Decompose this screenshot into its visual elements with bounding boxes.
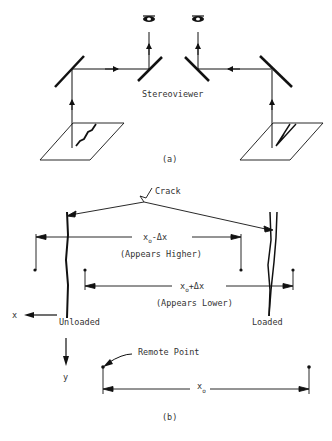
right-eye-icon (192, 16, 204, 22)
caption-a: (a) (162, 154, 177, 164)
upper-dim-suffix: -Δx (152, 232, 167, 242)
left-specimen-unloaded (40, 123, 124, 160)
loaded-crack (268, 212, 277, 316)
panel-b: Crack xo-Δx (Appears Higher) (12, 186, 311, 422)
y-axis-label: y (63, 372, 68, 382)
x-axis-label: x (12, 310, 17, 320)
y-axis-arrow (63, 338, 69, 366)
appears-higher-label: (Appears Higher) (120, 249, 202, 259)
loaded-label: Loaded (252, 317, 283, 327)
remote-point-label: Remote Point (138, 347, 199, 357)
bottom-dim-sub: o (202, 387, 206, 394)
right-specimen-loaded (240, 123, 323, 160)
appears-lower-label: (Appears Lower) (156, 298, 233, 308)
svg-text:xo+Δx: xo+Δx (180, 281, 204, 293)
stereoviewer-crack-diagram: Stereoviewer (a) Crack (0, 0, 332, 441)
svg-text:xo: xo (197, 381, 206, 394)
unloaded-label: Unloaded (59, 317, 100, 327)
lower-dim-suffix: +Δx (189, 281, 204, 291)
panel-a: Stereoviewer (a) (40, 16, 323, 164)
caption-b: (b) (162, 412, 177, 422)
left-eye-icon (143, 16, 155, 22)
bottom-dimension (103, 368, 309, 394)
remote-point-leader (103, 354, 132, 367)
crack-label: Crack (155, 186, 181, 196)
right-outer-mirror (260, 56, 292, 87)
stereoviewer-label: Stereoviewer (142, 89, 203, 99)
left-outer-mirror (55, 56, 84, 87)
unloaded-crack (66, 212, 68, 318)
x-axis-arrow (24, 312, 57, 318)
svg-text:xo-Δx: xo-Δx (143, 232, 167, 244)
